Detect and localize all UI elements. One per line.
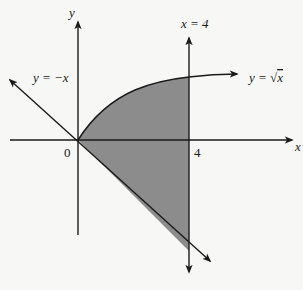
label-x-equals-4: x = 4 <box>180 16 209 31</box>
x-axis-label: x <box>294 139 301 154</box>
sqrt-label-prefix: y = <box>247 70 270 85</box>
shaded-region <box>78 77 189 251</box>
label-y-equals-neg-x: y = −x <box>31 70 69 85</box>
x-tick-4-label: 4 <box>194 145 201 160</box>
diagram-canvas: y x 0 4 x = 4 y = −x y = √x <box>0 0 303 290</box>
sqrt-radicand: x <box>276 70 283 85</box>
origin-label: 0 <box>64 145 71 160</box>
label-y-equals-sqrt-x: y = √x <box>247 70 283 85</box>
graph: y x 0 4 x = 4 y = −x y = √x <box>0 0 303 290</box>
y-axis-label: y <box>67 5 75 20</box>
